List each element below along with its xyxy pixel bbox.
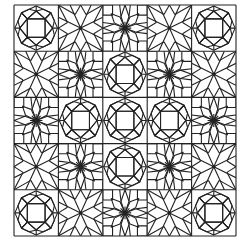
star-tile <box>58 5 102 51</box>
geometric-tile-pattern <box>0 0 250 250</box>
square-octagon-tile <box>104 52 147 96</box>
square-octagon-tile <box>104 98 147 142</box>
square-octagon-tile <box>15 6 58 50</box>
dense-flower-tile <box>103 190 147 236</box>
star-tile <box>147 190 191 236</box>
square-octagon-tile <box>148 98 191 142</box>
star-tile <box>147 5 191 51</box>
square-octagon-tile <box>104 145 147 189</box>
square-octagon-tile <box>192 6 235 50</box>
star-tile <box>192 144 236 190</box>
dense-flower-tile <box>147 51 191 97</box>
dense-flower-tile <box>58 144 102 190</box>
star-tile <box>14 144 58 190</box>
dense-flower-tile <box>192 97 236 143</box>
star-tile <box>58 190 102 236</box>
dense-flower-tile <box>58 51 102 97</box>
square-octagon-tile <box>59 98 102 142</box>
dense-flower-tile <box>14 97 58 143</box>
dense-flower-tile <box>147 144 191 190</box>
dense-flower-tile <box>103 5 147 51</box>
square-octagon-tile <box>192 191 235 235</box>
square-octagon-tile <box>15 191 58 235</box>
star-tile <box>192 51 236 97</box>
star-tile <box>14 51 58 97</box>
